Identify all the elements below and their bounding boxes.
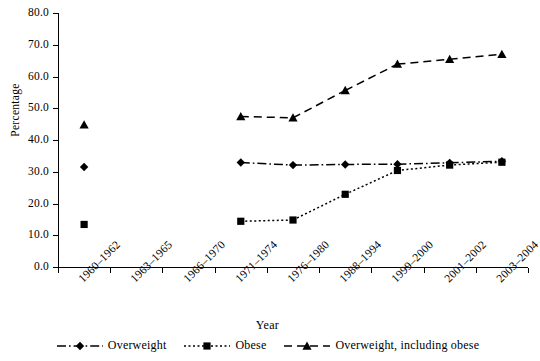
square-icon <box>183 340 231 352</box>
legend-item-label: Obese <box>235 338 266 353</box>
triangle-icon <box>283 340 331 352</box>
legend-item-0[interactable]: Overweight <box>56 338 167 353</box>
legend-item-label: Overweight, including obese <box>335 338 479 353</box>
legend-item-label: Overweight <box>108 338 167 353</box>
legend-item-1[interactable]: Obese <box>183 338 266 353</box>
diamond-icon <box>56 340 104 352</box>
legend-item-2[interactable]: Overweight, including obese <box>283 338 479 353</box>
chart-legend: OverweightObeseOverweight, including obe… <box>0 338 535 353</box>
